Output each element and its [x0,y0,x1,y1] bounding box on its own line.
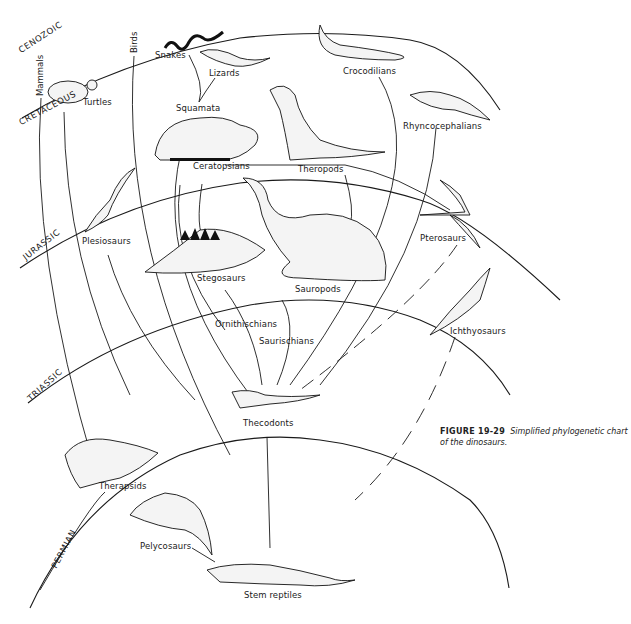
group-label-crocodilians: Crocodilians [343,66,396,76]
crocodile-icon [319,25,404,60]
stem-reptile-icon [207,564,355,586]
thecodont-stem-line [267,437,270,548]
group-label-rhyncocephalians: Rhyncocephalians [403,121,482,131]
group-label-snakes: Snakes [155,50,186,60]
stegosaur-icon [145,228,265,273]
mammal-lineage [39,98,95,470]
group-label-stem-reptiles: Stem reptiles [244,590,302,600]
group-label-ichthyosaurs: Ichthyosaurs [450,326,506,336]
group-label-birds: Birds [129,32,139,53]
jurassic-boundary-arc [28,300,510,403]
group-label-pelycosaurs: Pelycosaurs [140,541,191,551]
group-label-ornithischians: Ornithischians [215,319,277,329]
group-label-turtles: Turtles [83,97,112,107]
group-label-sauropods: Sauropods [295,284,341,294]
group-label-theropods: Theropods [298,164,344,174]
group-label-thecodonts: Thecodonts [243,418,293,428]
group-label-pterosaurs: Pterosaurs [420,233,466,243]
theropod-icon [270,86,385,160]
lizard-icon [200,50,270,67]
figure-caption: FIGURE 19-29 Simplified phylogenetic cha… [440,426,630,448]
plesiosaur-icon [85,168,135,232]
sauropod-icon [243,178,386,281]
snake-icon [165,32,223,49]
group-label-therapsids: Therapsids [99,481,147,491]
ichthyosaur-lineage [355,337,455,500]
turtle-lineage [64,112,130,395]
thecodont-icon [232,391,320,408]
triceratops-icon [155,117,258,161]
figure-number: FIGURE 19-29 [440,427,505,436]
rhyncocephalian-icon [410,92,490,121]
group-label-mammals: Mammals [35,55,45,96]
snake-lizard-join [189,55,215,102]
group-label-ceratopsians: Ceratopsians [193,161,250,171]
plesiosaur-lineage [108,255,195,400]
group-label-saurischians: Saurischians [259,336,314,346]
ichthyosaur-icon [430,268,490,335]
phylogenetic-chart [0,0,631,624]
group-label-lizards: Lizards [209,68,240,78]
group-label-plesiosaurs: Plesiosaurs [82,236,131,246]
group-label-stegosaurs: Stegosaurs [197,273,246,283]
group-label-squamata: Squamata [176,103,220,113]
